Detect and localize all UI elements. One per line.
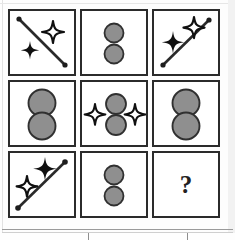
- question-mark: ?: [154, 153, 218, 216]
- page-background-right: [228, 0, 235, 240]
- star-outline-icon: [42, 21, 64, 43]
- circle-gray-lower: [106, 115, 126, 135]
- diagonal-line-down: [19, 19, 65, 65]
- cell-r3c1-figure: [10, 153, 74, 216]
- page-edge-top-rule: [0, 3, 228, 4]
- section-divider-rule: [2, 229, 233, 230]
- cell-answer[interactable]: ?: [152, 151, 220, 218]
- dot-endpoint-top: [62, 159, 68, 165]
- star-filled-icon: [33, 157, 57, 181]
- cell-r2c3-figure: [154, 82, 218, 145]
- answer-options-strip: [0, 233, 235, 240]
- cell-r1c1[interactable]: [8, 9, 76, 76]
- cell-r1c2-figure: [82, 11, 146, 74]
- star-outline-icon-right: [125, 104, 146, 125]
- cell-r1c3-figure: [154, 11, 218, 74]
- circle-gray-large-lower: [29, 113, 56, 140]
- star-filled-icon: [21, 41, 39, 59]
- circle-gray-upper: [105, 166, 124, 185]
- star-outline-icon: [183, 17, 204, 38]
- circle-gray-lower: [105, 45, 124, 64]
- cell-r2c2[interactable]: [80, 80, 148, 147]
- cell-r2c1[interactable]: [8, 80, 76, 147]
- cell-r1c1-figure: [10, 11, 74, 74]
- circle-gray-lower: [105, 187, 124, 206]
- circle-gray-large-lower: [173, 113, 200, 140]
- puzzle-page: ?: [0, 0, 235, 240]
- cell-r2c1-figure: [10, 82, 74, 145]
- section-divider-rule-shadow: [2, 232, 233, 233]
- cell-r3c1[interactable]: [8, 151, 76, 218]
- matrix-grid: ?: [8, 9, 220, 220]
- cell-r2c2-figure: [82, 82, 146, 145]
- star-outline-icon-left: [85, 104, 106, 125]
- cell-r2c3[interactable]: [152, 80, 220, 147]
- answer-option-divider-1: [88, 233, 89, 240]
- cell-r3c2[interactable]: [80, 151, 148, 218]
- dot-endpoint-bottom: [15, 205, 21, 211]
- circle-gray-upper: [105, 24, 124, 43]
- star-filled-icon: [162, 31, 184, 53]
- cell-r3c2-figure: [82, 153, 146, 216]
- page-edge-left-rule: [2, 0, 3, 232]
- dot-endpoint-top: [16, 16, 21, 21]
- cell-r1c2[interactable]: [80, 9, 148, 76]
- answer-option-divider-2: [187, 233, 188, 240]
- dot-endpoint-bottom: [160, 62, 165, 67]
- cell-r1c3[interactable]: [152, 9, 220, 76]
- dot-endpoint-bottom: [62, 62, 67, 67]
- dot-endpoint-top: [206, 17, 211, 22]
- circle-gray-upper: [106, 94, 126, 114]
